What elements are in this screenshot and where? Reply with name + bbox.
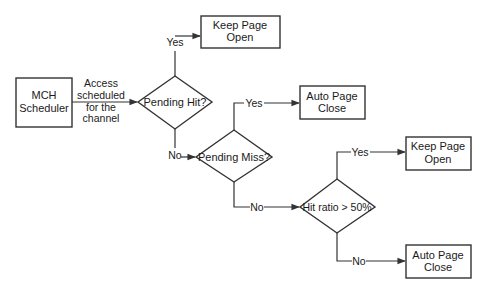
edge-label-yes-2: Yes [245,97,262,109]
edge-label-no-2: No [250,201,264,213]
edge-pending-miss-yes-bend [234,103,244,130]
node-auto-page-close-1-line1: Auto Page [306,90,357,102]
node-keep-page-open-2: Keep Page Open [406,137,471,170]
node-pending-hit-decision: Pending Hit? [138,76,212,129]
edge-label-access-1: Access [84,77,118,89]
edge-hit-ratio-no-bend [337,233,352,261]
edge-label-access-2: scheduled [77,89,125,101]
edge-label-access-4: channel [83,112,120,124]
flowchart-canvas: Access scheduled for the channel Yes No … [0,0,488,293]
edge-label-no-3: No [352,255,366,267]
node-hit-ratio-decision: Hit ratio > 50% [300,179,375,233]
node-keep-page-open-2-line2: Open [425,153,452,165]
node-keep-page-open-2-line1: Keep Page [411,140,465,152]
flowchart-svg: Access scheduled for the channel Yes No … [0,0,488,293]
node-mch-scheduler-line2: Scheduler [19,102,69,114]
edge-label-no-1: No [168,149,182,161]
node-pending-hit-label: Pending Hit? [144,96,207,108]
node-auto-page-close-2-line2: Close [424,261,452,273]
node-auto-page-close-1: Auto Page Close [300,86,365,119]
node-keep-page-open-1-line1: Keep Page [213,19,267,31]
node-keep-page-open-1: Keep Page Open [201,16,280,48]
edge-pending-miss-no-bend [234,182,250,207]
node-pending-miss-decision: Pending Miss? [196,130,272,182]
node-auto-page-close-1-line2: Close [318,102,346,114]
edge-label-yes-1: Yes [166,36,183,48]
node-auto-page-close-2: Auto Page Close [406,245,471,278]
node-mch-scheduler: MCH Scheduler [16,78,72,127]
node-mch-scheduler-line1: MCH [31,89,56,101]
node-hit-ratio-label: Hit ratio > 50% [302,201,371,213]
node-auto-page-close-2-line1: Auto Page [412,249,463,261]
edge-hit-ratio-yes-bend [337,152,351,179]
node-pending-miss-label: Pending Miss? [198,151,270,163]
node-keep-page-open-1-line2: Open [227,31,254,43]
edge-label-yes-3: Yes [351,146,368,158]
